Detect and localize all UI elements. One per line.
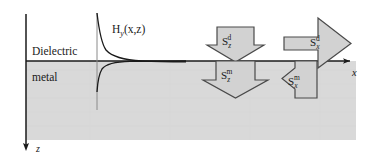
- flux-label-szm: Szm: [221, 70, 236, 81]
- z-axis-label: z: [36, 144, 40, 154]
- flux-label-szd-superscript: d: [228, 33, 232, 42]
- dielectric-region-label: Dielectric: [32, 46, 77, 58]
- flux-label-sxm: Sxm: [288, 76, 303, 87]
- flux-label-sxm-superscript: m: [294, 73, 300, 82]
- field-curve-label: Hy(x,z): [112, 24, 145, 36]
- flux-label-sxd: Sxd: [310, 37, 323, 48]
- flux-arrow-szd: [207, 27, 264, 62]
- metal-region-label: metal: [32, 72, 58, 84]
- field-curve-label-args: (x,z): [124, 23, 145, 35]
- field-curve-label-subscript: y: [120, 29, 124, 38]
- x-axis-label: x: [352, 68, 357, 79]
- flux-label-szd: Szd: [222, 36, 235, 47]
- flux-label-sxd-superscript: d: [316, 34, 320, 43]
- spp-interface-diagram: Dielectric metal Hy(x,z) x z Szd Szm Sxd…: [0, 0, 374, 162]
- flux-label-szm-superscript: m: [227, 67, 233, 76]
